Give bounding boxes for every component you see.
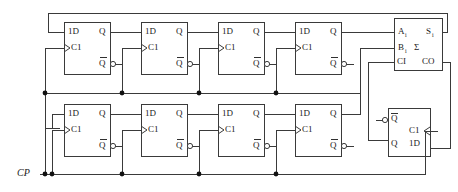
ground-symbol bbox=[43, 118, 61, 132]
top-ff-2[interactable] bbox=[141, 22, 187, 74]
bot-ff-2[interactable] bbox=[141, 104, 187, 156]
carry-ff[interactable] bbox=[388, 108, 430, 156]
bot-ff-4[interactable] bbox=[295, 104, 341, 156]
hotspot-layer bbox=[0, 0, 458, 192]
full-adder[interactable] bbox=[394, 18, 442, 70]
top-ff-3[interactable] bbox=[218, 22, 264, 74]
top-ff-4[interactable] bbox=[295, 22, 341, 74]
bot-ff-1[interactable] bbox=[64, 104, 110, 156]
top-ff-1[interactable] bbox=[64, 22, 110, 74]
bot-ff-3[interactable] bbox=[218, 104, 264, 156]
circuit-diagram-canvas: 1D C1 Q Q 1D C1 Q Q 1D C1 Q Q 1D C1 Q Q … bbox=[0, 0, 458, 192]
